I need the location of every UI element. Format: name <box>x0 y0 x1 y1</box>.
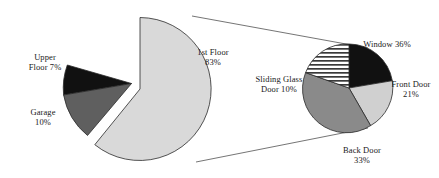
detail-pie <box>303 44 393 133</box>
main-pie <box>63 18 211 161</box>
label-sliding-glass-door-line1: Sliding Glass <box>248 74 310 84</box>
label-upper-floor-line1: Upper <box>16 52 74 62</box>
label-sliding-glass-door: Sliding Glass Door 10% <box>248 74 310 94</box>
label-sliding-glass-door-line2: Door 10% <box>248 84 310 94</box>
label-back-door-line2: 33% <box>332 155 392 165</box>
label-window: Window 36% <box>356 39 418 49</box>
label-back-door-line1: Back Door <box>332 145 392 155</box>
label-front-door-line2: 21% <box>385 89 437 99</box>
connector-line-top <box>192 16 368 48</box>
label-upper-floor-line2: Floor 7% <box>16 62 74 72</box>
label-garage-line1: Garage <box>14 107 72 117</box>
label-back-door: Back Door 33% <box>332 145 392 165</box>
label-first-floor-line2: 83% <box>186 57 240 67</box>
label-garage: Garage 10% <box>14 107 72 127</box>
label-first-floor: 1st Floor 83% <box>186 47 240 67</box>
label-garage-line2: 10% <box>14 117 72 127</box>
label-first-floor-line1: 1st Floor <box>186 47 240 57</box>
label-window-line1: Window 36% <box>356 39 418 49</box>
label-front-door: Front Door 21% <box>385 79 437 99</box>
label-front-door-line1: Front Door <box>385 79 437 89</box>
label-upper-floor: Upper Floor 7% <box>16 52 74 72</box>
pie-of-pie-chart: Upper Floor 7% Garage 10% 1st Floor 83% … <box>0 0 439 178</box>
